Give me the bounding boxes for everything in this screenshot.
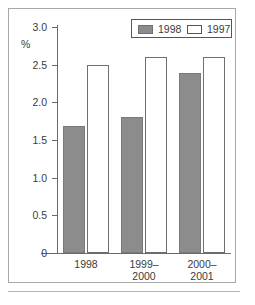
chart-legend: 19981997 <box>131 19 232 38</box>
y-axis-tick-label: 1.0 <box>17 173 47 183</box>
bar-1998-1999–2000 <box>121 117 143 253</box>
y-axis-tick-mark <box>52 65 58 66</box>
y-axis-tick-label: 1.5 <box>17 135 47 145</box>
y-axis-tick-label: 2.0 <box>17 97 47 107</box>
bar-1998-1998 <box>63 126 85 253</box>
y-axis-tick-label: 0 <box>17 248 47 258</box>
open-white-swatch <box>187 25 202 34</box>
bar-1997-2000–2001 <box>203 57 225 253</box>
bar-1997-1998 <box>87 65 109 253</box>
bar-1998-2000–2001 <box>179 73 201 253</box>
bar-1997-1999–2000 <box>145 57 167 253</box>
chart-figure: % 00.51.01.52.02.53.0 19981999–20002000–… <box>0 0 255 305</box>
y-axis-tick-mark <box>52 215 58 216</box>
bottom-divider <box>8 291 240 292</box>
legend-label: 1997 <box>207 23 230 36</box>
y-axis-tick-label: 2.5 <box>17 60 47 70</box>
x-axis-line <box>41 253 231 254</box>
y-axis-tick-mark <box>52 140 58 141</box>
y-axis-tick-mark <box>52 27 58 28</box>
y-axis-tick-mark <box>52 253 58 254</box>
plot-area: % 00.51.01.52.02.53.0 19981999–20002000–… <box>0 0 255 305</box>
y-axis-tick-label: 3.0 <box>17 22 47 32</box>
x-axis-category-label-line: 2000– <box>167 259 237 271</box>
y-axis-tick-label: 0.5 <box>17 210 47 220</box>
y-axis-tick-mark <box>52 178 58 179</box>
y-axis-tick-mark <box>52 102 58 103</box>
filled-gray-swatch <box>138 25 153 34</box>
legend-label: 1998 <box>158 23 181 36</box>
y-axis-unit-label: % <box>21 39 30 49</box>
x-axis-category-label: 2000–2001 <box>167 259 237 282</box>
x-axis-category-label-line: 2001 <box>167 271 237 283</box>
